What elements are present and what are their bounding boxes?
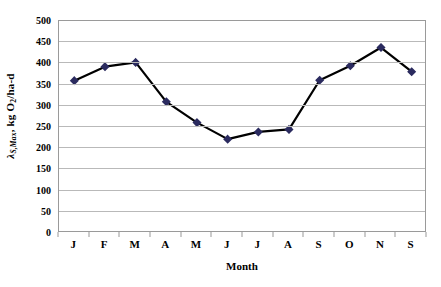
x-axis-tick-label: F bbox=[101, 238, 108, 250]
x-axis-tick-mark bbox=[272, 232, 273, 237]
x-axis-title: Month bbox=[58, 260, 426, 272]
gridline bbox=[59, 41, 425, 42]
x-axis-tick-label: J bbox=[224, 238, 230, 250]
y-axis-title: λS,Max, kg O2/ha-d bbox=[0, 0, 22, 232]
x-axis-tick-label: S bbox=[316, 238, 322, 250]
x-axis-tick-mark bbox=[150, 232, 151, 237]
y-axis-title-text: λS,Max, kg O2/ha-d bbox=[4, 73, 18, 158]
chart-figure: λS,Max, kg O2/ha-d 500450400350300250200… bbox=[0, 0, 441, 287]
x-axis-tick-label: J bbox=[71, 238, 77, 250]
gridline bbox=[59, 20, 425, 21]
x-axis-tick-mark bbox=[242, 232, 243, 237]
y-axis-tick-label: 0 bbox=[46, 227, 51, 238]
x-axis-tick-mark bbox=[58, 232, 59, 237]
x-axis-tick-label: M bbox=[129, 238, 139, 250]
data-point-marker bbox=[102, 63, 109, 70]
y-axis-tick-label: 150 bbox=[36, 163, 51, 174]
gridline bbox=[59, 147, 425, 148]
x-axis-tick-mark bbox=[180, 232, 181, 237]
x-axis-tick-label: A bbox=[161, 238, 169, 250]
x-axis-tick-label: A bbox=[284, 238, 292, 250]
x-axis-tick-label: J bbox=[255, 238, 261, 250]
y-axis-tick-label: 500 bbox=[36, 15, 51, 26]
y-axis-tick-label: 300 bbox=[36, 99, 51, 110]
gridline bbox=[59, 84, 425, 85]
x-axis-tick-mark bbox=[119, 232, 120, 237]
x-axis-tick-label: M bbox=[191, 238, 201, 250]
x-axis-tick-labels: JFMAMJJASONS bbox=[58, 238, 426, 258]
y-axis-tick-label: 50 bbox=[41, 205, 51, 216]
gridline bbox=[59, 62, 425, 63]
data-point-marker bbox=[255, 129, 262, 136]
gridline bbox=[59, 211, 425, 212]
x-axis-tick-mark bbox=[364, 232, 365, 237]
x-axis-tick-mark bbox=[334, 232, 335, 237]
x-axis-tick-mark bbox=[303, 232, 304, 237]
y-axis-tick-labels: 500450400350300250200150100500 bbox=[20, 0, 54, 287]
y-axis-tick-label: 200 bbox=[36, 142, 51, 153]
x-axis-tick-mark bbox=[88, 232, 89, 237]
x-axis-tick-label: O bbox=[345, 238, 354, 250]
y-axis-tick-label: 450 bbox=[36, 36, 51, 47]
x-axis-tick-label: S bbox=[408, 238, 414, 250]
x-axis-tick-mark bbox=[395, 232, 396, 237]
gridline bbox=[59, 190, 425, 191]
y-axis-tick-label: 350 bbox=[36, 78, 51, 89]
gridline bbox=[59, 168, 425, 169]
x-axis-tick-mark bbox=[426, 232, 427, 237]
gridline bbox=[59, 126, 425, 127]
plot-area bbox=[58, 20, 426, 232]
y-axis-tick-label: 250 bbox=[36, 121, 51, 132]
x-axis-tick-label: N bbox=[376, 238, 384, 250]
data-point-marker bbox=[71, 77, 78, 84]
y-axis-tick-label: 400 bbox=[36, 57, 51, 68]
gridline bbox=[59, 105, 425, 106]
y-axis-tick-label: 100 bbox=[36, 184, 51, 195]
x-axis-tick-mark bbox=[211, 232, 212, 237]
